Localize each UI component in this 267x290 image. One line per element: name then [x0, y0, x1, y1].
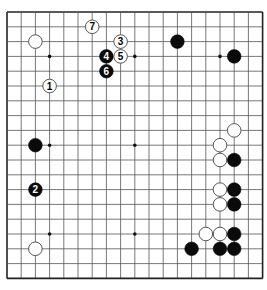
move-5[interactable]: 5 [114, 50, 128, 64]
move-1[interactable]: 1 [43, 79, 57, 93]
black-stone-icon [227, 183, 241, 197]
black-stone-icon [227, 227, 241, 241]
white-stone[interactable] [29, 35, 43, 49]
move-number-label: 7 [89, 21, 95, 32]
white-stone-icon [213, 138, 227, 152]
black-stone[interactable] [213, 242, 227, 256]
move-3[interactable]: 3 [114, 35, 128, 49]
black-stone[interactable] [185, 242, 199, 256]
black-stone-icon [227, 198, 241, 212]
white-stone[interactable] [213, 183, 227, 197]
black-stone-icon [227, 242, 241, 256]
move-2[interactable]: 2 [29, 183, 43, 197]
black-stone-icon [213, 242, 227, 256]
white-stone-icon [29, 35, 43, 49]
white-stone-icon [213, 183, 227, 197]
white-stone[interactable] [29, 242, 43, 256]
black-stone-icon [227, 50, 241, 64]
move-number-label: 5 [118, 51, 124, 62]
white-stone[interactable] [213, 138, 227, 152]
black-stone[interactable] [227, 183, 241, 197]
star-point-icon [48, 55, 52, 59]
move-number-label: 3 [118, 36, 124, 47]
black-stone[interactable] [171, 35, 185, 49]
move-number-label: 2 [33, 184, 39, 195]
black-stone[interactable] [29, 138, 43, 152]
black-stone-icon [227, 153, 241, 167]
white-stone[interactable] [227, 124, 241, 138]
star-point-icon [133, 55, 137, 59]
white-stone-icon [213, 153, 227, 167]
move-number-label: 6 [104, 66, 110, 77]
white-stone-icon [213, 227, 227, 241]
move-4[interactable]: 4 [100, 50, 114, 64]
white-stone[interactable] [213, 227, 227, 241]
black-stone[interactable] [227, 153, 241, 167]
star-point-icon [48, 232, 52, 236]
move-7[interactable]: 7 [85, 20, 99, 34]
black-stone-icon [29, 138, 43, 152]
white-stone[interactable] [213, 153, 227, 167]
move-number-label: 1 [47, 81, 53, 92]
black-stone[interactable] [227, 50, 241, 64]
white-stone-icon [29, 242, 43, 256]
black-stone[interactable] [227, 227, 241, 241]
black-stone-icon [171, 35, 185, 49]
white-stone[interactable] [199, 227, 213, 241]
star-point-icon [133, 232, 137, 236]
black-stone[interactable] [227, 198, 241, 212]
black-stone-icon [185, 242, 199, 256]
star-point-icon [218, 55, 222, 59]
star-point-icon [48, 143, 52, 147]
move-number-label: 4 [104, 51, 110, 62]
black-stone[interactable] [227, 242, 241, 256]
white-stone-icon [227, 124, 241, 138]
white-stone-icon [213, 198, 227, 212]
go-board[interactable]: 1234567 [0, 0, 267, 290]
star-point-icon [133, 143, 137, 147]
white-stone[interactable] [213, 198, 227, 212]
move-6[interactable]: 6 [100, 64, 114, 78]
white-stone-icon [199, 227, 213, 241]
